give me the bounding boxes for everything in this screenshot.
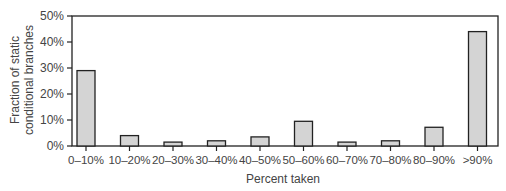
bar	[208, 141, 226, 146]
y-tick-label: 20%	[40, 87, 64, 101]
bar	[382, 141, 400, 146]
x-tick-label: 30–40%	[195, 154, 237, 166]
y-tick-label: 40%	[40, 35, 64, 49]
y-axis: 0%10%20%30%40%50%	[40, 9, 72, 153]
bar	[469, 32, 487, 146]
plot-frame	[72, 16, 498, 146]
y-tick-label: 30%	[40, 61, 64, 75]
y-tick-label: 10%	[40, 113, 64, 127]
x-axis-label: Percent taken	[0, 172, 506, 186]
bar	[295, 121, 313, 146]
x-axis: 0–10%10–20%20–30%30–40%40–50%50–60%60–70…	[68, 146, 492, 166]
bar	[77, 71, 95, 146]
x-tick-label: 20–30%	[152, 154, 194, 166]
x-tick-label: 70–80%	[369, 154, 411, 166]
x-tick-label: 40–50%	[239, 154, 281, 166]
x-tick-label: >90%	[463, 154, 493, 166]
bar	[121, 136, 139, 146]
x-tick-label: 60–70%	[326, 154, 368, 166]
plot-area	[72, 16, 498, 146]
bar	[425, 127, 443, 146]
x-tick-label: 50–60%	[282, 154, 324, 166]
bar	[251, 137, 269, 146]
bar	[164, 142, 182, 146]
y-tick-label: 50%	[40, 9, 64, 23]
x-tick-label: 0–10%	[68, 154, 104, 166]
bar	[338, 142, 356, 146]
bar-chart: 0%10%20%30%40%50% 0–10%10–20%20–30%30–40…	[0, 0, 506, 191]
y-axis-label-line-2: conditional branches	[22, 25, 36, 135]
y-tick-label: 0%	[47, 139, 65, 153]
y-axis-label-line-1: Fraction of static	[8, 25, 22, 135]
x-tick-label: 10–20%	[108, 154, 150, 166]
x-tick-label: 80–90%	[413, 154, 455, 166]
